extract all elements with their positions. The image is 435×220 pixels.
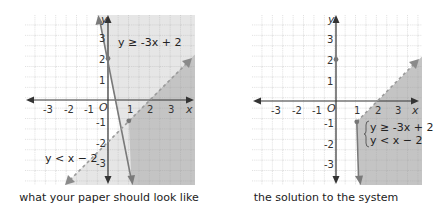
x-tick-label: 3 <box>168 104 174 115</box>
x-tick-label: -3 <box>43 104 53 115</box>
y-tick-label: -1 <box>324 118 334 129</box>
origin-label: O <box>99 101 108 114</box>
x-tick-label: -1 <box>84 104 94 115</box>
right-coordinate-plane: -3 -2 -1 O 1 2 3 x y 3 2 1 -1 -2 -3 y ≥ … <box>217 0 435 190</box>
y-axis-label: y <box>100 13 108 26</box>
point-0-2 <box>334 57 339 62</box>
left-caption: what your paper should look like <box>0 191 218 204</box>
x-axis-label: x <box>411 104 419 117</box>
x-tick-label: 1 <box>127 104 133 115</box>
y-tick-label: -1 <box>96 117 106 128</box>
y-tick-label: -3 <box>96 158 106 169</box>
point-1-neg1 <box>126 118 131 123</box>
y-axis-label: y <box>327 13 335 26</box>
x-tick-label: -3 <box>271 105 281 116</box>
x-axis-label: x <box>185 103 193 116</box>
inequality-label-2: y < x − 2 <box>45 152 97 165</box>
y-tick-label: 3 <box>327 34 333 45</box>
system-inequality-2: y < x − 2 <box>370 134 422 147</box>
right-graph-panel: -3 -2 -1 O 1 2 3 x y 3 2 1 -1 -2 -3 y ≥ … <box>217 0 435 220</box>
left-graph-panel: -3 -2 -1 O 1 2 3 x y 3 2 1 -1 -2 -3 y ≥ … <box>0 0 218 220</box>
inequality-label-1: y ≥ -3x + 2 <box>118 36 181 49</box>
x-tick-label: 2 <box>147 104 153 115</box>
y-tick-label: -3 <box>324 159 334 170</box>
x-tick-label: 1 <box>354 105 360 116</box>
x-tick-label: -2 <box>292 105 302 116</box>
x-tick-label: 2 <box>375 105 381 116</box>
point-0-2 <box>106 56 111 61</box>
y-tick-label: 1 <box>327 76 333 87</box>
y-tick-label: -2 <box>324 139 334 150</box>
origin-label: O <box>327 102 336 115</box>
y-tick-label: 3 <box>99 33 105 44</box>
system-inequality-1: y ≥ -3x + 2 <box>370 121 433 134</box>
y-tick-label: 1 <box>99 75 105 86</box>
y-tick-label: -2 <box>96 138 106 149</box>
left-coordinate-plane: -3 -2 -1 O 1 2 3 x y 3 2 1 -1 -2 -3 y ≥ … <box>0 0 218 190</box>
x-tick-label: 3 <box>395 105 401 116</box>
x-tick-label: -2 <box>64 104 74 115</box>
y-tick-label: 2 <box>99 54 105 65</box>
x-tick-label: -1 <box>312 105 322 116</box>
y-tick-label: 2 <box>327 55 333 66</box>
right-caption: the solution to the system <box>217 191 435 204</box>
point-1-neg1 <box>354 119 359 124</box>
